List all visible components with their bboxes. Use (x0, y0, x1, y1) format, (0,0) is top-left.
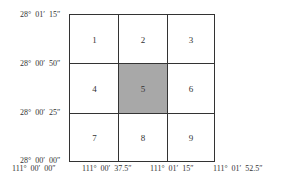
longitude-label-2: 111° 00′ 37.5″ (82, 164, 132, 173)
longitude-label-1: 111° 00′ 00″ (12, 164, 56, 173)
cell-label: 4 (92, 84, 97, 94)
cell-label: 9 (189, 133, 194, 143)
cell-label: 6 (189, 84, 194, 94)
cell-label: 1 (92, 35, 97, 45)
grid-divider-horizontal-1 (70, 63, 214, 64)
grid-cell-9: 9 (167, 114, 215, 162)
grid-cell-1: 1 (70, 15, 119, 64)
grid-cell-8: 8 (119, 114, 167, 162)
latitude-label-lower-mid: 28° 00′ 25″ (20, 108, 60, 117)
cell-label: 8 (141, 133, 146, 143)
cell-label: 5 (141, 84, 146, 94)
cell-label: 7 (92, 133, 97, 143)
grid-cell-6: 6 (167, 64, 215, 114)
longitude-label-4: 111° 01′ 52.5″ (213, 164, 263, 173)
grid-cell-3: 3 (167, 15, 215, 64)
grid-divider-vertical-1 (118, 15, 119, 161)
grid-divider-horizontal-2 (70, 113, 214, 114)
grid-cell-2: 2 (119, 15, 167, 64)
longitude-label-3: 111° 01′ 15″ (150, 164, 194, 173)
cell-label: 2 (141, 35, 146, 45)
grid-cell-4: 4 (70, 64, 119, 114)
cell-label: 3 (189, 35, 194, 45)
grid-map: 1 2 3 4 5 6 7 8 9 (69, 14, 215, 162)
grid-divider-vertical-2 (167, 15, 168, 161)
latitude-label-top: 28° 01′ 15″ (20, 10, 60, 19)
grid-cell-7: 7 (70, 114, 119, 162)
grid-cell-5-highlighted: 5 (119, 64, 167, 114)
latitude-label-upper-mid: 28° 00′ 50″ (20, 59, 60, 68)
